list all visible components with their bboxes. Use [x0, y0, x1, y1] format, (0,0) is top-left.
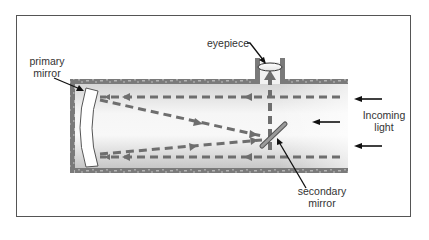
- primary-mirror-label-line2: mirror: [24, 67, 70, 79]
- eyepiece-label: eyepiece: [203, 37, 249, 49]
- secondary-mirror-label-line2: mirror: [292, 197, 352, 209]
- tube-wall-left: [70, 79, 75, 173]
- eyepiece-lens: [258, 63, 282, 71]
- incoming-light-label-line1: Incoming: [360, 109, 408, 121]
- primary-mirror-label: primary mirror: [24, 55, 70, 79]
- tube-wall-top-right: [285, 79, 348, 84]
- incoming-light-label-line2: light: [360, 121, 408, 133]
- tube-wall-top-left: [70, 79, 255, 84]
- eyepiece-label-text: eyepiece: [203, 37, 249, 49]
- secondary-mirror-label-line1: secondary: [292, 185, 352, 197]
- secondary-mirror-label: secondary mirror: [292, 185, 352, 209]
- incoming-light-label: Incoming light: [360, 109, 408, 133]
- primary-mirror-label-line1: primary: [24, 55, 70, 67]
- tube-wall-bottom: [70, 168, 348, 173]
